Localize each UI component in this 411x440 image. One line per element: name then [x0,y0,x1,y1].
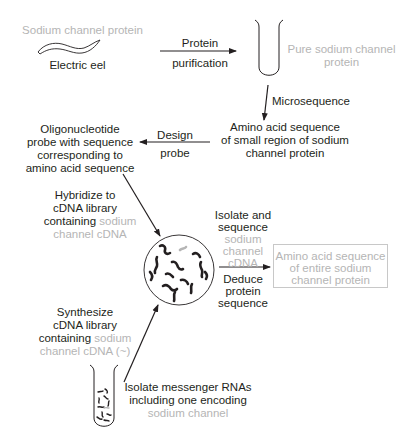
hybridize-step-line1: Hybridize to [40,189,130,201]
sodium-channel-protein-label: Sodium channel protein [20,24,145,36]
mrna-label-line2: including one encoding [118,394,258,406]
hybridize-step-line3-dark: containing [44,215,96,227]
pure-protein-label-line1: Pure sodium channel [284,43,399,55]
amino-small-label-line3: channel protein [210,147,360,159]
hybridize-step-line3: containing sodium [35,215,145,227]
cdna-library-dish-icon [144,235,214,305]
synthesize-step-line2: cDNA library [40,319,130,331]
design-probe-step-line1: Design [150,129,200,141]
electric-eel-label: Electric eel [45,59,110,71]
amino-entire-label-line3: channel protein [273,274,388,286]
synthesize-step-line3: containing sodium [30,332,140,344]
microsequence-step-label: Microsequence [272,95,352,107]
isolate-sequence-step-line1: Isolate and [213,209,273,221]
synthesize-step-line3-gray: sodium [94,332,131,344]
deduce-step-line2: protein [213,285,273,297]
synthesize-step-line4: channel cDNA (~) [30,345,140,357]
design-probe-step-line2: probe [150,147,200,159]
amino-entire-label-line2: of entire sodium [273,262,388,274]
protein-purification-step-line2: purification [160,57,240,69]
test-tube-icon [255,20,283,75]
deduce-step-line1: Deduce [213,273,273,285]
hybridize-step-line2: cDNA library [40,202,130,214]
oligo-probe-label-line1: Oligonucleotide [15,123,145,135]
synthesize-step-line1: Synthesize [40,306,130,318]
mrna-label-line3: sodium channel [118,407,258,419]
eel-icon [38,40,100,54]
mrna-test-tube-icon [90,365,118,426]
arrow-icon [264,85,268,120]
hybridize-step-line3-gray: sodium [99,215,136,227]
isolate-sequence-step-line2: sequence [213,221,273,233]
hybridize-step-line4: channel cDNA [40,228,140,240]
isolate-sequence-step-line3: sodium [213,233,273,245]
protein-purification-step-line1: Protein [165,37,235,49]
pure-protein-label-line2: protein [284,56,399,68]
amino-entire-label-line1: Amino acid sequence [273,250,388,262]
isolate-sequence-step-line5: cDNA [213,257,273,269]
oligo-probe-label-line4: amino acid sequence [15,162,145,174]
oligo-probe-label-line3: corresponding to [15,149,145,161]
amino-small-label-line2: of small region of sodium [210,134,360,146]
synthesize-step-line3-dark: containing [39,332,91,344]
isolate-sequence-step-line4: channel [213,245,273,257]
amino-small-label-line1: Amino acid sequence [210,121,360,133]
mrna-label-line1: Isolate messenger RNAs [118,381,258,393]
deduce-step-line3: sequence [213,297,273,309]
oligo-probe-label-line2: probe with sequence [15,136,145,148]
